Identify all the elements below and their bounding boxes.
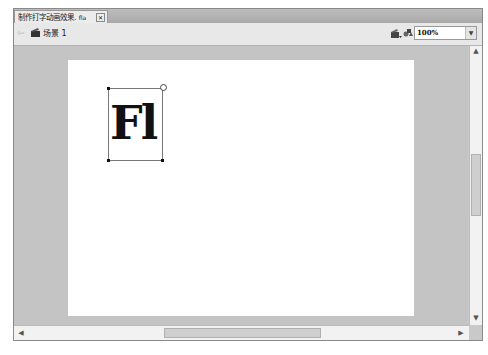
text-block-handle[interactable] xyxy=(160,84,167,91)
text-field-content: Fl xyxy=(110,95,156,151)
chevron-down-icon[interactable]: ▼ xyxy=(465,27,476,39)
document-window: 制作打字动画效果. fla ✕ ⇦ 场景 1 100% ▼ Fl xyxy=(13,8,483,341)
zoom-select[interactable]: 100% ▼ xyxy=(414,26,477,40)
scroll-up-icon[interactable]: ▲ xyxy=(470,47,482,55)
zoom-value: 100% xyxy=(417,28,438,37)
scroll-down-icon[interactable]: ▼ xyxy=(470,314,482,322)
edit-symbols-icon[interactable] xyxy=(403,28,414,38)
edit-bar: ⇦ 场景 1 100% ▼ xyxy=(14,23,482,46)
document-tab[interactable]: 制作打字动画效果. fla ✕ xyxy=(14,10,108,23)
horizontal-scrollbar[interactable]: ◀ ▶ xyxy=(14,325,469,340)
back-arrow-icon[interactable]: ⇦ xyxy=(17,28,25,38)
scroll-right-icon[interactable]: ▶ xyxy=(455,329,467,337)
scroll-left-icon[interactable]: ◀ xyxy=(15,329,27,337)
document-tab-title: 制作打字动画效果. xyxy=(18,13,76,22)
stage[interactable]: Fl xyxy=(68,60,414,316)
vertical-scrollbar[interactable]: ▲ ▼ xyxy=(469,46,482,325)
pasteboard: Fl xyxy=(14,46,468,325)
close-tab-icon[interactable]: ✕ xyxy=(96,13,105,22)
scene-icon xyxy=(31,28,40,37)
horizontal-scroll-thumb[interactable] xyxy=(164,328,321,338)
resize-handle[interactable] xyxy=(107,159,110,162)
resize-handle[interactable] xyxy=(107,87,110,90)
edit-scene-icon[interactable] xyxy=(391,28,402,38)
scene-label[interactable]: 场景 1 xyxy=(43,27,67,38)
document-tab-suffix: fla xyxy=(79,14,86,21)
text-field[interactable]: Fl xyxy=(108,88,163,161)
resize-handle[interactable] xyxy=(161,159,164,162)
tab-bar: 制作打字动画效果. fla ✕ xyxy=(14,9,482,23)
vertical-scroll-thumb[interactable] xyxy=(471,154,481,216)
